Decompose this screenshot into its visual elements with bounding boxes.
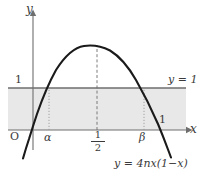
x-tick-label-1: 1 xyxy=(159,114,166,125)
x-tick-label-beta: β xyxy=(139,132,145,143)
x-axis-label: x xyxy=(190,123,197,135)
origin-label: O xyxy=(10,131,19,142)
fraction-denominator: 2 xyxy=(91,143,105,154)
fraction-numerator: 1 xyxy=(91,130,105,141)
x-tick-label-alpha: α xyxy=(44,132,51,143)
curve-equation-label: y = 4nx(1−x) xyxy=(114,158,188,169)
line-equation-label: y = 1 xyxy=(168,74,197,85)
x-tick-label-one-half: 1 2 xyxy=(91,130,105,153)
y-axis-label: y xyxy=(26,3,33,15)
math-figure: y x O 1 1 α β 1 2 y = 1 y = 4nx(1−x) xyxy=(0,0,203,177)
y-tick-label-1: 1 xyxy=(15,74,22,85)
